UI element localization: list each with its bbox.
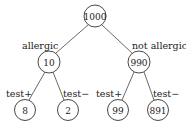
label-test-positive-right: test+ bbox=[96, 88, 122, 99]
node-value: 990 bbox=[130, 58, 147, 68]
node-value: 10 bbox=[43, 58, 55, 68]
probability-tree-diagram: 1000 10 990 8 2 99 891 allergic not alle… bbox=[0, 0, 186, 126]
node-allergic-test-negative: 2 bbox=[58, 100, 79, 121]
label-test-positive-left: test+ bbox=[6, 88, 32, 99]
label-test-negative-left: test− bbox=[63, 88, 89, 99]
node-value: 1000 bbox=[84, 12, 107, 22]
edge-not-allergic-pos bbox=[122, 72, 134, 100]
label-test-negative-right: test− bbox=[153, 88, 179, 99]
node-value: 99 bbox=[112, 106, 124, 116]
node-value: 8 bbox=[22, 106, 28, 116]
edge-root-not-allergic bbox=[102, 25, 132, 53]
node-not-allergic-test-negative: 891 bbox=[148, 100, 169, 121]
label-not-allergic: not allergic bbox=[132, 40, 186, 51]
node-not-allergic-test-positive: 99 bbox=[108, 100, 129, 121]
node-not-allergic: 990 bbox=[128, 51, 150, 73]
edge-root-allergic bbox=[56, 25, 88, 53]
node-allergic-test-positive: 8 bbox=[15, 100, 36, 121]
node-value: 2 bbox=[65, 106, 71, 116]
node-value: 891 bbox=[149, 106, 166, 116]
label-allergic: allergic bbox=[22, 40, 58, 51]
node-allergic: 10 bbox=[38, 51, 60, 73]
node-root: 1000 bbox=[84, 5, 107, 27]
